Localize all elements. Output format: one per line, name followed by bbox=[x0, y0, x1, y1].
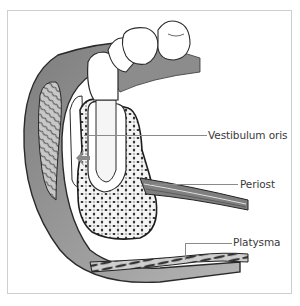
premolar-crown bbox=[122, 28, 158, 65]
label-vestibulum-oris: Vestibulum oris bbox=[208, 129, 287, 141]
label-platysma: Platysma bbox=[233, 236, 280, 248]
jaw-cross-section-illustration bbox=[0, 0, 300, 306]
leader-line-platysma-drop bbox=[185, 243, 186, 260]
leader-line-periost bbox=[150, 184, 238, 185]
tooth-root bbox=[96, 100, 116, 182]
molar-crown bbox=[158, 21, 190, 60]
leader-line-platysma bbox=[185, 243, 232, 244]
leader-line-vestibulum-oris bbox=[84, 135, 207, 136]
label-periost: Periost bbox=[240, 178, 275, 190]
